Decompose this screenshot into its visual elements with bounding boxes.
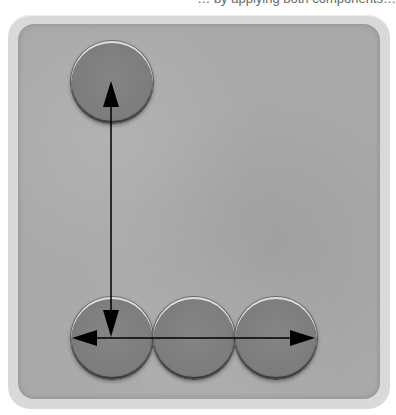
arrowhead-left-icon [72, 330, 97, 346]
arrowhead-down-icon [103, 310, 119, 337]
arrowhead-up-icon [103, 81, 119, 107]
arrowhead-right-icon [290, 330, 315, 346]
horizontal-arrow [72, 330, 315, 346]
vertical-arrow [103, 81, 119, 337]
arrows-overlay [0, 0, 396, 415]
